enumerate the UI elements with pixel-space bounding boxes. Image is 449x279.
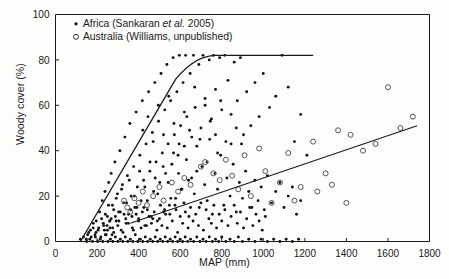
data-point [140,189,145,194]
data-point [229,195,232,198]
data-point [167,95,170,98]
data-point [258,115,261,118]
data-point [151,194,156,199]
data-point [88,238,91,241]
data-point [348,132,353,137]
data-point [132,229,135,232]
data-point [156,240,159,243]
data-point [229,238,232,241]
data-point [147,90,150,93]
data-point [236,222,239,225]
data-point [176,231,179,234]
data-point [184,54,187,57]
data-point [109,238,112,241]
figure-container: 0200400600800100012001400160018000204060… [0,0,449,279]
data-point [89,229,92,232]
data-point [212,204,215,207]
data-point [179,124,182,127]
data-point [202,229,205,232]
data-point [211,240,214,243]
data-point [154,236,157,239]
data-point [182,201,185,204]
data-point [111,226,114,229]
data-point [398,126,403,131]
data-point [214,88,217,91]
data-point [126,174,129,177]
data-point [181,240,184,243]
data-point [145,142,148,145]
data-point [189,72,192,75]
data-point [172,152,175,155]
data-point [169,197,172,200]
data-point [187,226,190,229]
data-point [185,158,188,161]
data-point [179,215,182,218]
data-point [95,231,98,234]
data-point [261,229,264,232]
data-point [152,190,155,193]
data-point [136,240,139,243]
data-point [204,97,207,100]
data-point [198,240,201,243]
data-point [178,54,181,57]
data-point [224,240,227,243]
data-point [291,240,294,243]
data-point [278,240,281,243]
data-point [135,213,138,216]
data-point [157,120,160,123]
data-point [162,133,165,136]
data-point [119,211,122,214]
data-point [297,238,300,241]
data-point [151,217,154,220]
data-point [104,213,107,216]
data-point [95,220,98,223]
data-point [242,153,247,158]
data-point [91,240,94,243]
data-point [166,240,169,243]
data-point [148,170,151,173]
data-point [263,169,268,174]
y-tick-label: 60 [38,100,50,111]
data-point [169,180,174,185]
plot-frame [56,15,430,242]
data-point [156,220,159,223]
data-point [218,213,221,216]
data-point [305,154,308,157]
data-point [311,139,316,144]
data-point [192,54,195,57]
data-point [239,211,242,214]
data-point [315,189,320,194]
data-point [104,190,107,193]
data-point [111,240,114,243]
data-point [188,129,191,132]
data-point [172,122,175,125]
data-point [161,240,164,243]
data-point [139,238,142,241]
data-point [115,220,118,223]
data-point [225,176,228,179]
data-point [235,211,238,214]
data-point [187,215,190,218]
data-point [344,200,349,205]
data-point [202,54,205,57]
data-point [197,224,200,227]
data-point [295,213,298,216]
data-point [195,145,198,148]
data-point [94,236,97,239]
data-point [216,152,219,155]
data-point [171,220,174,223]
data-point [293,140,296,143]
data-point [107,204,110,207]
data-point [96,240,99,243]
data-point [111,233,114,236]
data-point [230,215,233,218]
data-point [157,185,162,190]
data-point [298,185,303,190]
data-point [247,238,250,241]
data-point [239,56,242,59]
data-point [128,179,131,182]
data-point [164,236,167,239]
data-point [141,129,144,132]
data-point [263,208,266,211]
data-point [153,81,156,84]
